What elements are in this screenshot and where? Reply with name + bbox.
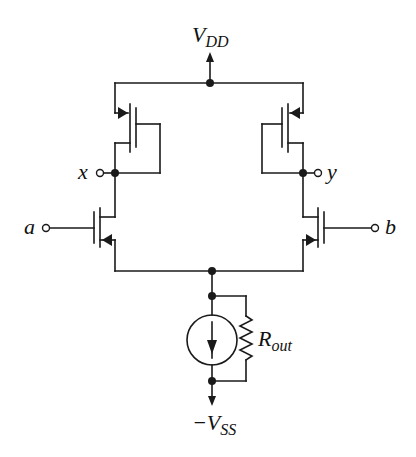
- terminal-b: [372, 225, 379, 232]
- tail-current-source: [187, 296, 237, 381]
- node-x-label: x: [77, 159, 88, 184]
- left-input-pmos: [50, 208, 115, 271]
- vdd-supply-arrow: [206, 52, 214, 83]
- node-y-label: y: [325, 159, 337, 184]
- input-b-label: b: [385, 214, 396, 239]
- right-load-pmos: [262, 83, 303, 173]
- terminal-y: [315, 170, 322, 177]
- circuit-diagram: VDD x y a b Rout −VSS: [0, 0, 416, 457]
- right-input-pmos: [303, 208, 371, 271]
- vss-label: −VSS: [192, 410, 236, 438]
- rout-label: Rout: [257, 326, 292, 354]
- terminal-a: [43, 225, 50, 232]
- rout-resistor: [212, 296, 252, 381]
- terminal-x: [97, 170, 104, 177]
- input-a-label: a: [24, 214, 35, 239]
- vdd-label: VDD: [192, 22, 229, 50]
- schematic-svg: VDD x y a b Rout −VSS: [0, 0, 416, 457]
- left-load-pmos: [115, 83, 160, 173]
